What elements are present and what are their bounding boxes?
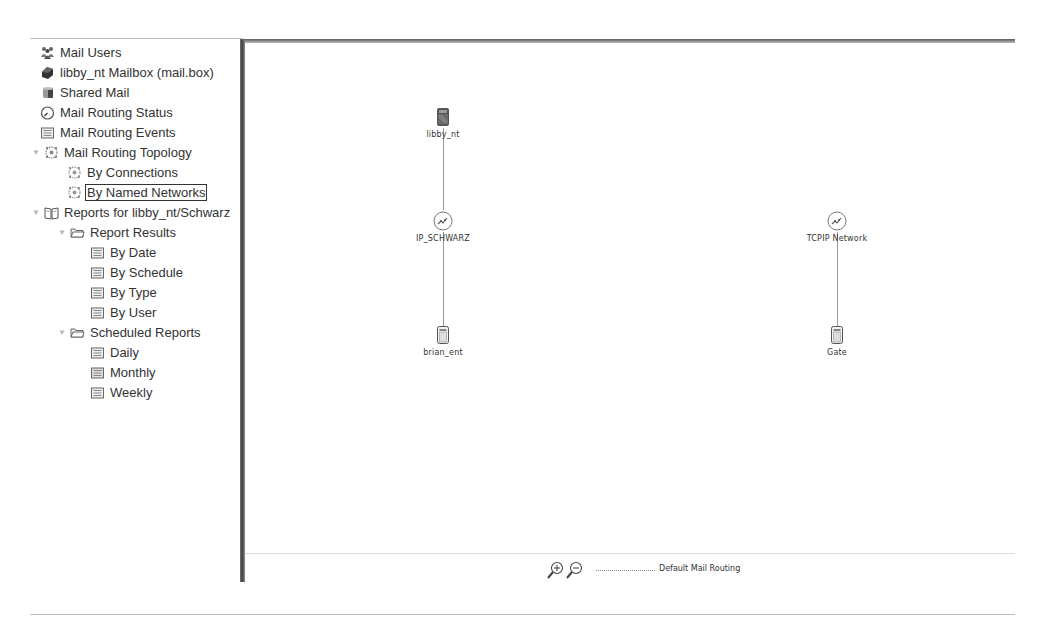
expand-triangle-icon[interactable]: ▼ xyxy=(31,147,41,157)
node-label: libby_nt xyxy=(426,130,459,139)
bottom-divider xyxy=(30,614,1015,615)
shared-mail-icon xyxy=(40,85,55,100)
report-icon xyxy=(90,345,105,360)
tree-item-mail-users[interactable]: Mail Users xyxy=(40,42,122,62)
expand-triangle-icon[interactable]: ▼ xyxy=(57,227,67,237)
tree-item-label: Report Results xyxy=(89,225,177,240)
tree-item-label: By Connections xyxy=(86,165,179,180)
book-icon xyxy=(44,205,59,220)
zoom-in-button[interactable] xyxy=(546,561,564,581)
tree-item-shared-mail[interactable]: Shared Mail xyxy=(40,82,130,102)
gauge-icon xyxy=(40,105,55,120)
report-icon xyxy=(90,365,105,380)
edge-tcpip-gate xyxy=(837,232,838,326)
tree-item-label: By Type xyxy=(109,285,158,300)
tree-item-label: By Date xyxy=(109,245,157,260)
tree-item-by-named-networks[interactable]: By Named Networks xyxy=(67,182,206,202)
edge-ip-schwarz-brian-ent xyxy=(443,232,444,326)
report-icon xyxy=(90,245,105,260)
report-icon xyxy=(90,265,105,280)
tree-item-label: By Named Networks xyxy=(86,185,206,200)
node-brian-ent[interactable]: brian_ent xyxy=(413,325,473,357)
edge-libby-nt-ip-schwarz xyxy=(443,128,444,210)
node-libby-nt[interactable]: libby_nt xyxy=(413,107,473,139)
tree-item-reports[interactable]: ▼ Reports for libby_nt/Schwarz xyxy=(31,202,231,222)
tree-item-label: By Schedule xyxy=(109,265,184,280)
expand-triangle-icon[interactable]: ▼ xyxy=(57,327,67,337)
tree-item-label: Daily xyxy=(109,345,140,360)
tree-item-by-connections[interactable]: By Connections xyxy=(67,162,179,182)
topology-canvas[interactable] xyxy=(245,40,1015,554)
top-divider xyxy=(30,38,243,39)
node-label: TCPIP Network xyxy=(807,234,868,243)
canvas-top-border xyxy=(240,39,1015,43)
mailbox-icon xyxy=(40,65,55,80)
node-label: IP_SCHWARZ xyxy=(416,234,470,243)
navigator-tree: Mail Users libby_nt Mailbox (mail.box) S… xyxy=(0,40,243,582)
tree-item-mailbox[interactable]: libby_nt Mailbox (mail.box) xyxy=(40,62,215,82)
folder-icon xyxy=(70,225,85,240)
tree-item-daily[interactable]: Daily xyxy=(90,342,140,362)
topology-icon xyxy=(67,185,82,200)
tree-item-label: Monthly xyxy=(109,365,157,380)
events-list-icon xyxy=(40,125,55,140)
tree-item-label: By User xyxy=(109,305,157,320)
tree-item-label: Mail Routing Topology xyxy=(63,145,193,160)
network-icon xyxy=(433,211,453,231)
legend-label: Default Mail Routing xyxy=(659,564,740,573)
tree-item-mail-routing-status[interactable]: Mail Routing Status xyxy=(40,102,174,122)
node-tcpip-network[interactable]: TCPIP Network xyxy=(787,211,887,243)
mail-users-icon xyxy=(40,45,55,60)
server-icon xyxy=(830,325,844,345)
server-icon xyxy=(436,107,450,127)
node-label: Gate xyxy=(827,348,847,357)
tree-item-scheduled-reports[interactable]: ▼ Scheduled Reports xyxy=(57,322,202,342)
folder-icon xyxy=(70,325,85,340)
tree-item-label: Mail Routing Events xyxy=(59,125,177,140)
topology-icon xyxy=(67,165,82,180)
tree-item-label: Mail Routing Status xyxy=(59,105,174,120)
tree-item-monthly[interactable]: Monthly xyxy=(90,362,157,382)
tree-item-label: Scheduled Reports xyxy=(89,325,202,340)
tree-item-label: Weekly xyxy=(109,385,153,400)
pane-splitter[interactable] xyxy=(240,40,245,582)
node-label: brian_ent xyxy=(423,348,463,357)
legend-line-swatch xyxy=(596,570,656,571)
expand-triangle-icon[interactable]: ▼ xyxy=(31,207,41,217)
zoom-out-icon xyxy=(565,561,583,581)
tree-item-by-date[interactable]: By Date xyxy=(90,242,157,262)
report-icon xyxy=(90,305,105,320)
topology-icon xyxy=(44,145,59,160)
network-icon xyxy=(827,211,847,231)
node-ip-schwarz[interactable]: IP_SCHWARZ xyxy=(403,211,483,243)
node-gate[interactable]: Gate xyxy=(807,325,867,357)
zoom-in-icon xyxy=(546,561,564,581)
tree-item-label: Shared Mail xyxy=(59,85,130,100)
report-icon xyxy=(90,385,105,400)
tree-item-report-results[interactable]: ▼ Report Results xyxy=(57,222,177,242)
tree-item-label: Reports for libby_nt/Schwarz xyxy=(63,205,231,220)
tree-item-label: libby_nt Mailbox (mail.box) xyxy=(59,65,215,80)
tree-item-weekly[interactable]: Weekly xyxy=(90,382,153,402)
tree-item-by-user[interactable]: By User xyxy=(90,302,157,322)
tree-item-by-type[interactable]: By Type xyxy=(90,282,158,302)
tree-item-by-schedule[interactable]: By Schedule xyxy=(90,262,184,282)
tree-item-mail-routing-topology[interactable]: ▼ Mail Routing Topology xyxy=(31,142,193,162)
tree-item-label: Mail Users xyxy=(59,45,122,60)
canvas-bottom-border xyxy=(245,553,1015,554)
zoom-out-button[interactable] xyxy=(565,561,583,581)
tree-item-mail-routing-events[interactable]: Mail Routing Events xyxy=(40,122,177,142)
report-icon xyxy=(90,285,105,300)
server-icon xyxy=(436,325,450,345)
